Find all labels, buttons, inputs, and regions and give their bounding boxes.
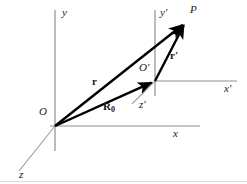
y-prime-axis-label: y′ (160, 7, 167, 18)
vector-diagram-figure: y x z y′ x′ z′ O O′ P r R0 r′ (0, 0, 247, 184)
vector-R0-base: R (103, 100, 111, 112)
origin-O-label: O (39, 106, 47, 117)
x-prime-axis-label: x′ (224, 83, 231, 94)
x-axis-label: x (173, 128, 178, 139)
vector-r-prime-label: r′ (170, 50, 178, 61)
vector-r-label: r (92, 76, 97, 87)
vector-r-prime-mark: ′ (175, 49, 178, 61)
z-axis-line (19, 126, 55, 171)
point-P-label: P (190, 4, 197, 15)
y-axis-label: y (62, 7, 67, 18)
vector-R0-label: R0 (103, 101, 115, 112)
diagram-canvas (0, 0, 247, 184)
z-prime-axis-label: z′ (139, 99, 146, 110)
z-axis-label: z (19, 169, 23, 180)
vector-r-arrow (55, 25, 183, 126)
origin-O-prime-label: O′ (139, 62, 149, 73)
vector-R0-subscript: 0 (111, 105, 115, 114)
